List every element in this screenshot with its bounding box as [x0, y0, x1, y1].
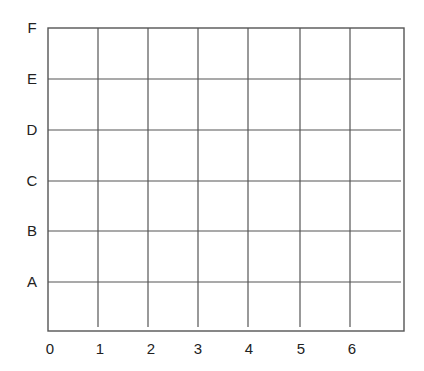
y-axis-label: D [27, 121, 38, 138]
x-axis-label: 0 [46, 340, 54, 357]
y-axis-label: C [27, 172, 38, 189]
x-axis-label: 1 [96, 340, 104, 357]
x-axis-label: 5 [297, 340, 305, 357]
x-axis-label: 2 [147, 340, 155, 357]
y-axis-label: E [27, 70, 37, 87]
x-axis-label: 3 [194, 340, 202, 357]
y-axis-label: F [27, 19, 36, 36]
x-axis-label: 6 [348, 340, 356, 357]
coordinate-grid: 0123456 ABCDEF [0, 0, 424, 371]
y-axis-label: B [27, 222, 37, 239]
x-axis-label: 4 [245, 340, 253, 357]
y-axis-label: A [27, 273, 37, 290]
